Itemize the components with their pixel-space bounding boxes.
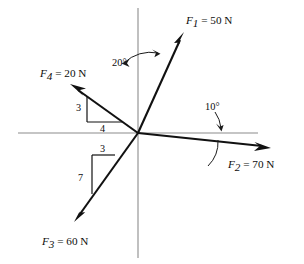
vector-f2-label: F2 = 70 N (227, 158, 274, 173)
vector-f2 (138, 133, 271, 151)
vector-f2-shaft (138, 133, 262, 146)
vector-f1-label: F1 = 50 N (185, 14, 232, 29)
slope-triangle-f4-rise-label: 3 (76, 102, 81, 113)
slope-triangle-f4-run-label: 4 (100, 123, 105, 134)
slope-triangle-f4: 3 4 (76, 96, 122, 134)
slope-triangle-f3-rise-label: 7 (78, 172, 83, 183)
vector-f2-arrowhead (254, 142, 271, 151)
force-diagram-canvas: 20° 10° 3 4 3 7 F1 = 50 N F2 = 70 (0, 0, 304, 264)
angle-arc-10-head (216, 124, 224, 132)
slope-triangle-f3: 3 7 (78, 143, 115, 194)
angle-arc-20-end-head (152, 50, 160, 58)
angle-20-label: 20° (112, 57, 127, 68)
angle-10-label: 10° (205, 101, 220, 112)
vector-f3 (74, 133, 138, 222)
vector-f1 (138, 32, 184, 133)
angle-arc-20-path (124, 52, 158, 63)
force-diagram: 20° 10° 3 4 3 7 F1 = 50 N F2 = 70 (0, 0, 304, 264)
vector-f3-shaft (80, 133, 138, 214)
vector-f3-label: F3 = 60 N (41, 235, 88, 250)
angle-arc-10-lower-path (208, 140, 218, 166)
vector-f1-arrowhead (174, 32, 184, 48)
angle-arc-20: 20° (112, 50, 161, 69)
slope-triangle-f3-run-label: 3 (100, 143, 105, 154)
vector-f4-label: F4 = 20 N (39, 67, 86, 82)
